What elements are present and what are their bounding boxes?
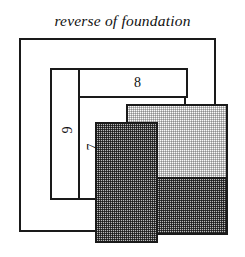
label-9: 9 — [61, 127, 75, 134]
figure-title: reverse of foundation — [0, 12, 245, 30]
label-7: 7 — [86, 144, 100, 151]
figure-canvas: reverse of foundation 8 9 7 — [0, 0, 245, 257]
shape-rect-8 — [78, 68, 188, 98]
label-8: 8 — [134, 76, 141, 90]
shape-rect-dark — [95, 122, 158, 243]
